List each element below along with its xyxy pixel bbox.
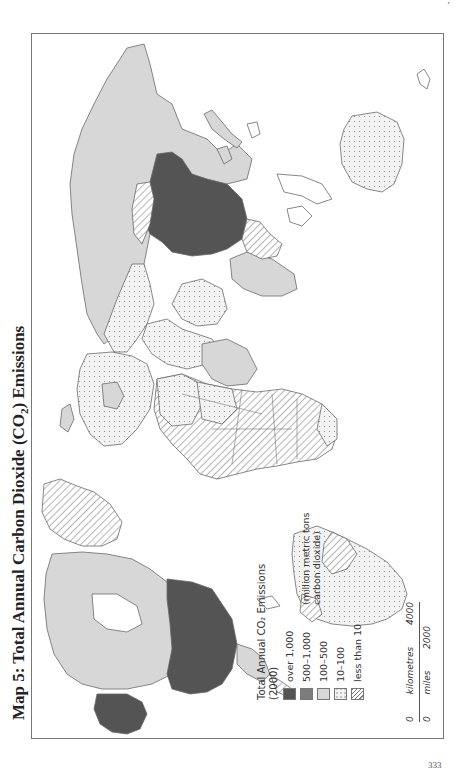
region-australia bbox=[340, 112, 404, 192]
title-subscript: 2 bbox=[18, 408, 30, 414]
swatch-over-1000 bbox=[283, 688, 296, 700]
region-greenland bbox=[42, 479, 122, 546]
scale-km-start: 0 bbox=[405, 716, 417, 722]
scale-mi-end: 2000 bbox=[422, 626, 434, 649]
legend-label: less than 10 bbox=[352, 624, 363, 682]
region-uk bbox=[60, 404, 74, 432]
scale-line bbox=[419, 602, 420, 722]
legend-title: Total Annual CO₂ Emissions bbox=[256, 500, 268, 700]
scale-mi-label: miles bbox=[422, 671, 434, 695]
swatch-10-100 bbox=[334, 688, 347, 700]
region-philippines bbox=[247, 122, 260, 138]
region-alaska bbox=[94, 694, 147, 734]
swatch-100-500 bbox=[317, 688, 330, 700]
legend-year: (2000) bbox=[268, 500, 280, 700]
legend-row-less-than-10: less than 10 bbox=[349, 500, 365, 700]
scale-km-label: kilometres bbox=[405, 647, 417, 694]
legend-label: 100–500 bbox=[318, 641, 329, 682]
legend-unit-line1: (million metric tons bbox=[300, 505, 311, 605]
title-prefix: Map 5: Total Annual Carbon Dioxide (CO bbox=[9, 414, 28, 720]
page-corner-mark: ’ bbox=[447, 0, 450, 10]
region-iran bbox=[172, 279, 227, 326]
legend-row-over-1000: over 1,000 bbox=[281, 500, 297, 700]
legend-unit: (million metric tons carbon dioxide) bbox=[300, 505, 322, 605]
legend-row-10-100: 10–100 bbox=[332, 500, 348, 700]
scale-mi-start: 0 bbox=[422, 716, 434, 722]
legend-label: 500–1,000 bbox=[301, 632, 312, 682]
region-borneo bbox=[287, 206, 312, 226]
region-indonesia bbox=[277, 174, 332, 204]
scale-bar: 0 kilometres 4000 0 miles 2000 bbox=[405, 602, 434, 722]
title-suffix: ) Emissions bbox=[9, 326, 28, 409]
legend-label: over 1,000 bbox=[284, 631, 295, 682]
region-saudi bbox=[202, 339, 257, 386]
page-number: 333 bbox=[428, 760, 442, 770]
region-usa bbox=[167, 579, 237, 694]
scale-km-row: 0 kilometres 4000 bbox=[405, 602, 417, 722]
region-north-africa-dots bbox=[157, 374, 202, 426]
legend: Total Annual CO₂ Emissions (2000) over 1… bbox=[256, 500, 386, 700]
scale-mi-row: 0 miles 2000 bbox=[422, 626, 434, 722]
region-new-zealand bbox=[417, 69, 430, 89]
legend-label: 10–100 bbox=[335, 647, 346, 682]
swatch-less-than-10 bbox=[351, 688, 364, 700]
scale-km-end: 4000 bbox=[405, 602, 417, 625]
swatch-500-1000 bbox=[300, 688, 313, 700]
legend-unit-line2: carbon dioxide) bbox=[311, 505, 322, 605]
